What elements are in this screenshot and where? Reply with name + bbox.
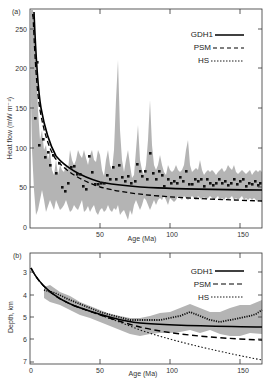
x-tick-50: 50 (96, 231, 104, 238)
legend-gdh1-b: GDH1 (191, 267, 214, 276)
legend-b: GDH1 PSM HS (191, 267, 244, 302)
x-tick-150-b: 150 (237, 367, 249, 374)
y-tick-4: 4 (23, 292, 27, 299)
panel-label-b: (b) (13, 252, 22, 260)
x-tick-0-b: 0 (29, 367, 33, 374)
y-axis-label-a: Heat flow (mW m⁻²) (6, 97, 14, 159)
y-tick-250: 250 (15, 26, 27, 33)
y-axis-label-b: Depth, km (7, 301, 15, 333)
x-axis-label-a: Age (Ma) (128, 235, 157, 243)
uncertainty-band-b (44, 285, 262, 336)
y-tick-150: 150 (15, 105, 27, 112)
y-tick-7: 7 (23, 358, 27, 365)
legend-psm-b: PSM (194, 280, 212, 289)
legend-hs-a: HS (198, 56, 209, 65)
panel-b: (b) 3 4 5 6 7 0 50 100 150 Age (Ma) Dept… (7, 252, 262, 378)
y-tick-50: 50 (19, 184, 27, 191)
y-tick-200: 200 (15, 65, 27, 72)
legend-gdh1-a: GDH1 (191, 30, 214, 39)
x-tick-100: 100 (166, 231, 178, 238)
x-tick-100-b: 100 (166, 367, 178, 374)
y-tick-6: 6 (23, 336, 27, 343)
legend-hs-b: HS (198, 293, 209, 302)
x-tick-50-b: 50 (96, 367, 104, 374)
legend-a: GDH1 PSM HS (191, 30, 244, 65)
y-tick-0: 0 (23, 224, 27, 231)
figure: (a) 250 200 150 100 50 0 50 100 150 Age … (0, 0, 268, 386)
uncertainty-band-a (31, 10, 262, 220)
x-axis-label-b: Age (Ma) (129, 370, 158, 378)
y-tick-5: 5 (23, 314, 27, 321)
panel-label-a: (a) (12, 8, 21, 16)
y-tick-100: 100 (15, 145, 27, 152)
panel-a: (a) 250 200 150 100 50 0 50 100 150 Age … (6, 8, 262, 243)
legend-psm-a: PSM (194, 43, 212, 52)
plot-frame-b (30, 253, 262, 364)
y-tick-3: 3 (23, 269, 27, 276)
y-axis-b (30, 253, 262, 364)
x-tick-150: 150 (237, 231, 249, 238)
